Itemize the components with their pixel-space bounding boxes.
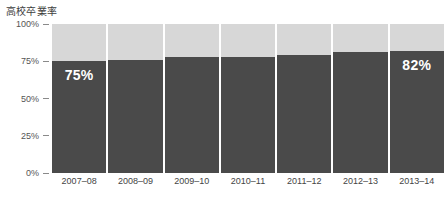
x-axis-tick-label: 2010–11 [221, 176, 275, 186]
bar-fill [221, 57, 275, 173]
bar-column[interactable]: 75% [52, 24, 106, 173]
plot-area: 75%82% [52, 24, 444, 173]
y-axis-tick-mark [43, 173, 49, 174]
bar-fill [333, 52, 387, 173]
bar-value-label: 82% [390, 57, 444, 73]
bar-fill [108, 60, 162, 173]
y-axis: 100%75%50%25%0% [0, 24, 52, 173]
bar-value-label: 75% [52, 67, 106, 83]
y-axis-tick-mark [43, 24, 49, 25]
y-axis-tick-label: 75% [21, 56, 39, 66]
bar-fill: 82% [390, 51, 444, 173]
bar-column[interactable]: 82% [390, 24, 444, 173]
x-axis-tick-label: 2012–13 [333, 176, 387, 186]
graduation-rate-chart: 高校卒業率 100%75%50%25%0% 75%82% 2007–082008… [0, 0, 444, 201]
bar-column[interactable] [333, 24, 387, 173]
x-axis-tick-label: 2007–08 [52, 176, 106, 186]
bar-column[interactable] [277, 24, 331, 173]
y-axis-tick-label: 25% [21, 131, 39, 141]
bar-column[interactable] [165, 24, 219, 173]
bar-fill [165, 57, 219, 173]
bar-column[interactable] [221, 24, 275, 173]
y-axis-tick-mark [43, 98, 49, 99]
y-axis-tick: 0% [26, 167, 52, 179]
x-axis-tick-label: 2013–14 [390, 176, 444, 186]
y-axis-tick-label: 100% [16, 19, 39, 29]
y-axis-tick: 25% [21, 130, 52, 142]
x-axis: 2007–082008–092009–102010–112011–122012–… [52, 176, 444, 186]
y-axis-tick-label: 0% [26, 168, 39, 178]
bar-fill: 75% [52, 61, 106, 173]
bar-fill [277, 55, 331, 173]
x-axis-tick-label: 2008–09 [108, 176, 162, 186]
y-axis-tick: 75% [21, 55, 52, 67]
x-axis-tick-label: 2009–10 [165, 176, 219, 186]
y-axis-tick-mark [43, 61, 49, 62]
y-axis-tick: 50% [21, 93, 52, 105]
bar-column[interactable] [108, 24, 162, 173]
y-axis-tick: 100% [16, 18, 52, 30]
chart-title: 高校卒業率 [6, 3, 57, 18]
y-axis-tick-label: 50% [21, 94, 39, 104]
y-axis-tick-mark [43, 135, 49, 136]
x-axis-tick-label: 2011–12 [277, 176, 331, 186]
